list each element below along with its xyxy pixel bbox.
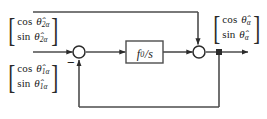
vector-row-sin: sin θ̂2α bbox=[17, 31, 49, 44]
output-vector: [ cos θ̂α sin θ̂α ] bbox=[211, 13, 262, 42]
takeoff-node bbox=[216, 49, 222, 55]
integrator-block-label: f0/s bbox=[128, 44, 162, 64]
vector-row-cos: cos θ̂α bbox=[222, 14, 250, 27]
bracket-right-icon: ] bbox=[52, 62, 59, 91]
summing-junction-right bbox=[193, 46, 205, 58]
bracket-left-icon: [ bbox=[8, 15, 15, 44]
bracket-right-icon: ] bbox=[52, 15, 59, 44]
bracket-right-icon: ] bbox=[253, 13, 260, 42]
vector-row-cos: cos θ̂2α bbox=[17, 16, 49, 29]
tf-denominator: s bbox=[148, 47, 153, 62]
vector-row-sin: sin θ̂α bbox=[222, 29, 250, 42]
input-vector-2: [ cos θ̂2α sin θ̂2α ] bbox=[6, 15, 61, 44]
vector-row-cos: cos θ̂1α bbox=[17, 63, 49, 76]
vector-row-sin: sin θ̂1α bbox=[17, 78, 49, 91]
bracket-left-icon: [ bbox=[8, 62, 15, 91]
block-diagram: [ cos θ̂2α sin θ̂2α ] [ cos θ̂1α sin θ̂1… bbox=[0, 0, 267, 119]
summing-junction-left bbox=[73, 46, 85, 58]
bracket-left-icon: [ bbox=[213, 13, 220, 42]
input-vector-1: [ cos θ̂1α sin θ̂1α ] bbox=[6, 62, 61, 91]
summing-junction-minus-sign: − bbox=[67, 56, 75, 69]
